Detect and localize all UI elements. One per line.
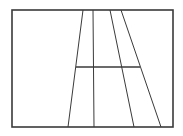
diagram-background <box>0 0 183 136</box>
line-diagram <box>0 0 183 136</box>
